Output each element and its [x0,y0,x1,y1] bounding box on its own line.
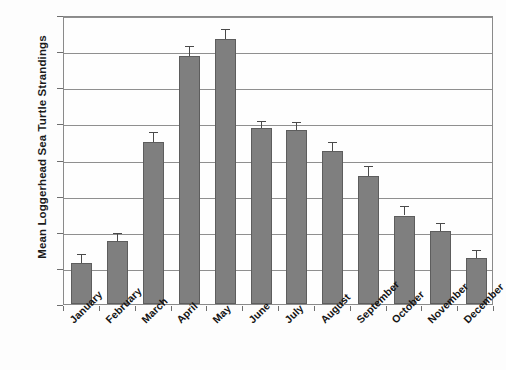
x-axis-tick-mark [493,306,494,311]
x-axis-label: May [210,302,233,325]
error-bar-line [117,233,118,241]
x-axis-tick-mark [171,306,172,311]
x-axis-tick-mark [386,306,387,311]
x-axis-tick-mark [242,306,243,311]
bar-group [322,15,343,304]
error-bar-cap [400,206,409,207]
x-axis-tick-mark [314,306,315,311]
x-axis-tick-mark [99,306,100,311]
x-axis-tick-mark [278,306,279,311]
bar [179,56,200,304]
bar-group [251,15,272,304]
x-axis-tick-mark [457,306,458,311]
bar-group [286,15,307,304]
bar-group [358,15,379,304]
error-bar-line [368,166,369,176]
error-bar-line [296,122,297,129]
bar [286,130,307,304]
bar-group [71,15,92,304]
error-bar-cap [77,254,86,255]
bar [322,151,343,304]
error-bar-cap [113,233,122,234]
error-bar-line [189,46,190,56]
error-bar-line [440,223,441,231]
error-bar-cap [472,250,481,251]
error-bar-cap [185,46,194,47]
error-bar-cap [436,223,445,224]
error-bar-cap [149,132,158,133]
bar-group [143,15,164,304]
error-bar-cap [328,142,337,143]
bar-group [215,15,236,304]
error-bar-cap [364,166,373,167]
x-axis-tick-mark [206,306,207,311]
plot-area [63,16,493,305]
error-bar-line [225,29,226,40]
bar [215,39,236,304]
bar [143,142,164,304]
bar-group [466,15,487,304]
bar-group [394,15,415,304]
bar-chart: Mean Loggerhead Sea Turtle Strandings 04… [0,0,506,370]
error-bar-cap [257,121,266,122]
x-axis-tick-mark [350,306,351,311]
bar-group [107,15,128,304]
bar [251,128,272,304]
error-bar-line [476,250,477,258]
y-axis-title: Mean Loggerhead Sea Turtle Strandings [36,2,48,292]
x-axis-tick-mark [421,306,422,311]
bar-group [430,15,451,304]
error-bar-line [332,142,333,151]
error-bar-cap [292,122,301,123]
error-bar-line [261,121,262,128]
error-bar-cap [221,29,230,30]
error-bar-line [153,132,154,143]
x-axis-tick-mark [63,306,64,311]
error-bar-line [81,254,82,263]
bar-group [179,15,200,304]
bar [358,176,379,304]
x-axis-tick-mark [135,306,136,311]
error-bar-line [404,206,405,215]
x-axis-label: July [282,302,306,326]
